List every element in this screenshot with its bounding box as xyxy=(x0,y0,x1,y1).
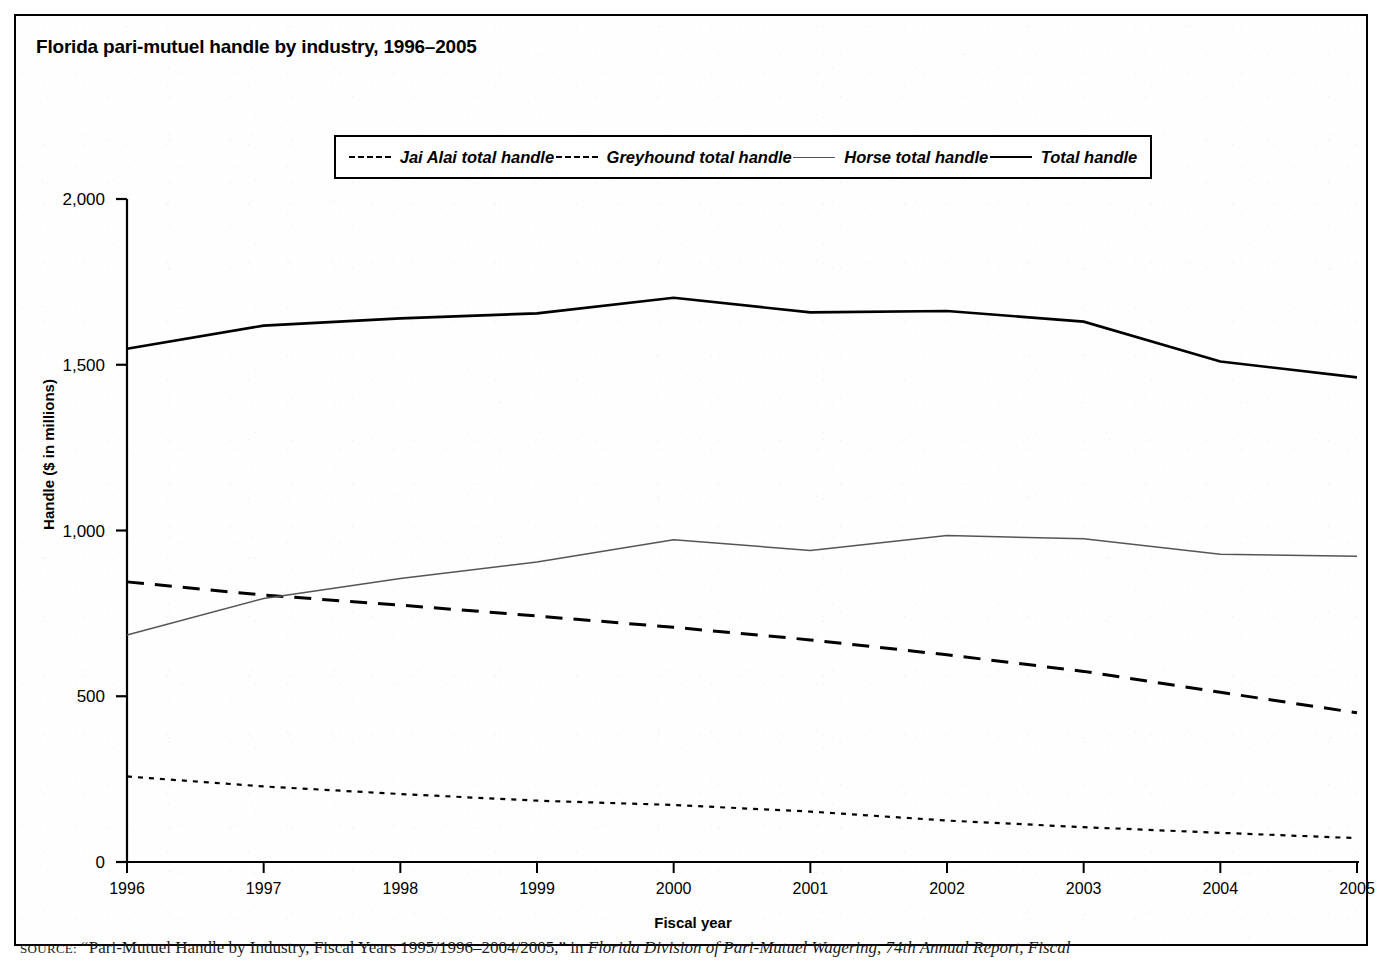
y-axis-tick-label: 2,000 xyxy=(15,190,105,210)
y-axis-tick-label: 1,000 xyxy=(15,522,105,542)
x-axis-tick-label: 2004 xyxy=(1180,880,1260,898)
y-axis-tick-label: 500 xyxy=(15,687,105,707)
y-axis-tick-label: 0 xyxy=(15,853,105,873)
source-connector: in xyxy=(570,938,583,957)
source-quoted-title: “Pari-Mutuel Handle by Industry, Fiscal … xyxy=(81,938,566,957)
source-prefix: SOURCE: xyxy=(20,941,77,956)
series-line-horse-total-handle xyxy=(127,535,1357,634)
series-line-total-handle xyxy=(127,298,1357,378)
y-axis-title: Handle ($ in millions) xyxy=(40,345,57,565)
x-axis-tick-label: 1998 xyxy=(360,880,440,898)
x-axis-tick-label: 1997 xyxy=(224,880,304,898)
x-axis-tick-label: 2003 xyxy=(1044,880,1124,898)
y-axis-tick-label: 1,500 xyxy=(15,356,105,376)
x-axis-title: Fiscal year xyxy=(16,914,1370,931)
series-line-greyhound-total-handle xyxy=(127,582,1357,713)
figure-frame: Florida pari-mutuel handle by industry, … xyxy=(14,14,1368,946)
source-publication: Florida Division of Pari-Mutuel Wagering… xyxy=(588,938,1071,957)
x-axis-tick-label: 2001 xyxy=(770,880,850,898)
chart-canvas xyxy=(16,16,1370,948)
source-note: SOURCE: “Pari-Mutuel Handle by Industry,… xyxy=(20,938,1368,958)
series-line-jai-alai-total-handle xyxy=(127,776,1357,838)
plot-area: 05001,0001,5002,000 19961997199819992000… xyxy=(16,16,1370,948)
x-axis-tick-label: 2002 xyxy=(907,880,987,898)
x-axis-tick-label: 2005 xyxy=(1317,880,1384,898)
x-axis-tick-label: 1999 xyxy=(497,880,577,898)
x-axis-tick-label: 1996 xyxy=(87,880,167,898)
x-axis-tick-label: 2000 xyxy=(634,880,714,898)
